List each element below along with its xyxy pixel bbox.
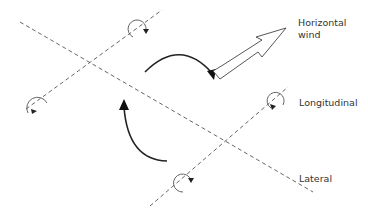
longitudinal-axis-upper-line — [26, 10, 162, 109]
horizontal-wind-label-line2: wind — [298, 29, 320, 40]
rotation-marker-left-icon — [27, 97, 47, 114]
horizontal-wind-arrow-icon — [213, 28, 286, 79]
rotation-marker-right-icon — [267, 92, 284, 110]
longitudinal-label: Longitudinal — [299, 97, 358, 108]
longitudinal-axis-lower-line — [150, 87, 288, 206]
turn-arrow-lower-icon — [119, 99, 167, 161]
wind-axis-diagram: Horizontal wind Longitudinal Lateral — [0, 0, 368, 214]
horizontal-wind-label-line1: Horizontal — [298, 17, 347, 28]
turn-arrow-upper-icon — [145, 55, 216, 80]
rotation-marker-upper-icon — [128, 20, 149, 37]
lateral-label: Lateral — [299, 173, 332, 184]
